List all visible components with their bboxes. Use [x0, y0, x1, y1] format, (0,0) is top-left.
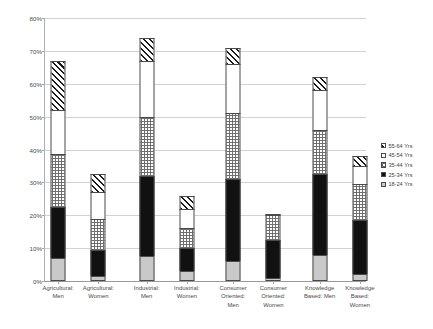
y-tick-label: 70% — [6, 47, 42, 54]
x-tick-label: KnowledgeBased:Women — [340, 284, 380, 309]
bar-segment-25-34-yrs[interactable] — [312, 174, 327, 255]
x-tick-label: Agricultural:Women — [78, 284, 118, 301]
stacked-bar[interactable] — [139, 38, 154, 281]
x-tick-mark — [233, 281, 234, 284]
legend-item[interactable]: 35-44 Yrs — [381, 160, 433, 170]
bar-segment-35-44-yrs[interactable] — [266, 215, 281, 240]
x-tick-label: ConsumerOriented:Men — [213, 284, 253, 309]
bar-segment-18-24-yrs[interactable] — [226, 261, 241, 281]
bar-segment-45-54-yrs[interactable] — [352, 166, 367, 184]
bar-segment-18-24-yrs[interactable] — [139, 256, 154, 281]
x-tick-label-line: Women — [167, 292, 207, 300]
x-tick-label-line: Agricultural: — [38, 284, 78, 292]
x-axis-labels: Agricultural:MenAgricultural:WomenIndust… — [44, 284, 366, 324]
legend-swatch-icon — [381, 162, 386, 167]
x-tick-label-line: Women — [78, 292, 118, 300]
bar-segment-18-24-yrs[interactable] — [179, 271, 194, 281]
x-tick-label-line: Men — [213, 301, 253, 309]
bar-segment-55-64-yrs[interactable] — [139, 38, 154, 61]
bar-slot — [167, 18, 207, 281]
bar-segment-25-34-yrs[interactable] — [226, 179, 241, 261]
x-tick-label-line: Based: Men — [300, 292, 340, 300]
legend-item[interactable]: 45-54 Yrs — [381, 151, 433, 161]
bar-segment-25-34-yrs[interactable] — [266, 240, 281, 278]
legend-swatch-icon — [381, 143, 386, 148]
stacked-bar[interactable] — [352, 156, 367, 281]
y-tick-label: 40% — [6, 146, 42, 153]
bar-segment-45-54-yrs[interactable] — [179, 209, 194, 229]
x-tick-mark — [320, 281, 321, 284]
bar-segment-18-24-yrs[interactable] — [312, 255, 327, 281]
bars-layer — [44, 18, 366, 281]
stacked-bar[interactable] — [312, 77, 327, 281]
bar-segment-35-44-yrs[interactable] — [91, 219, 106, 250]
y-tick-label: 30% — [6, 179, 42, 186]
x-tick-mark — [273, 281, 274, 284]
y-tick-label: 20% — [6, 212, 42, 219]
x-tick-mark — [98, 281, 99, 284]
x-tick-label-line: Industrial: — [167, 284, 207, 292]
bar-segment-25-34-yrs[interactable] — [179, 248, 194, 271]
x-tick-label-line: Agricultural: — [78, 284, 118, 292]
y-tick-label: 10% — [6, 245, 42, 252]
y-axis-ticks: 0%10%20%30%40%50%60%70%80% — [0, 18, 42, 281]
legend-item[interactable]: 55-64 Yrs — [381, 141, 433, 151]
bar-segment-55-64-yrs[interactable] — [91, 174, 106, 192]
bar-segment-45-54-yrs[interactable] — [226, 64, 241, 113]
bar-segment-55-64-yrs[interactable] — [51, 61, 66, 110]
bar-slot — [253, 18, 293, 281]
bar-segment-35-44-yrs[interactable] — [352, 184, 367, 220]
x-tick-mark — [187, 281, 188, 284]
bar-slot — [213, 18, 253, 281]
bar-slot — [340, 18, 380, 281]
legend-item[interactable]: 18-24 Yrs — [381, 179, 433, 189]
x-tick-mark — [360, 281, 361, 284]
legend-label: 55-64 Yrs — [388, 143, 412, 149]
y-tick-label: 80% — [6, 15, 42, 22]
bar-segment-55-64-yrs[interactable] — [226, 48, 241, 64]
x-tick-label-line: Industrial: — [127, 284, 167, 292]
bar-segment-25-34-yrs[interactable] — [352, 220, 367, 274]
bar-segment-55-64-yrs[interactable] — [312, 77, 327, 90]
bar-segment-25-34-yrs[interactable] — [91, 250, 106, 276]
legend-swatch-icon — [381, 182, 386, 187]
y-tick-label: 0% — [6, 278, 42, 285]
bar-segment-35-44-yrs[interactable] — [312, 130, 327, 174]
x-tick-label-line: Based: — [340, 292, 380, 300]
legend-label: 35-44 Yrs — [388, 162, 412, 168]
x-tick-label: Industrial:Men — [127, 284, 167, 301]
bar-segment-45-54-yrs[interactable] — [51, 110, 66, 154]
stacked-bar[interactable] — [179, 196, 194, 281]
bar-segment-35-44-yrs[interactable] — [139, 117, 154, 176]
gridline-0% — [45, 281, 366, 282]
bar-segment-35-44-yrs[interactable] — [179, 228, 194, 248]
stacked-bar[interactable] — [266, 214, 281, 281]
legend-swatch-icon — [381, 172, 386, 177]
x-tick-label-line: Knowledge — [300, 284, 340, 292]
bar-segment-55-64-yrs[interactable] — [352, 156, 367, 166]
bar-slot — [127, 18, 167, 281]
stacked-bar[interactable] — [226, 48, 241, 281]
stacked-bar[interactable] — [91, 174, 106, 281]
bar-segment-35-44-yrs[interactable] — [51, 154, 66, 207]
x-tick-label: KnowledgeBased: Men — [300, 284, 340, 301]
legend-item[interactable]: 25-34 Yrs — [381, 170, 433, 180]
stacked-bar[interactable] — [51, 61, 66, 281]
bar-segment-45-54-yrs[interactable] — [91, 192, 106, 218]
y-tick-label: 50% — [6, 113, 42, 120]
bar-segment-25-34-yrs[interactable] — [139, 176, 154, 257]
stacked-bar-chart: Proportion Business Creation 0%10%20%30%… — [0, 0, 433, 329]
bar-segment-55-64-yrs[interactable] — [179, 196, 194, 209]
x-tick-label-line: Oriented: — [213, 292, 253, 300]
x-tick-label-line: Men — [127, 292, 167, 300]
x-tick-label: ConsumerOriented:Women — [253, 284, 293, 309]
bar-segment-18-24-yrs[interactable] — [51, 258, 66, 281]
bar-segment-45-54-yrs[interactable] — [312, 90, 327, 129]
bar-segment-45-54-yrs[interactable] — [139, 61, 154, 117]
bar-segment-35-44-yrs[interactable] — [226, 113, 241, 179]
x-tick-mark — [147, 281, 148, 284]
x-tick-label-line: Knowledge — [340, 284, 380, 292]
bar-segment-25-34-yrs[interactable] — [51, 207, 66, 258]
x-tick-label-line: Women — [253, 301, 293, 309]
bar-slot — [300, 18, 340, 281]
